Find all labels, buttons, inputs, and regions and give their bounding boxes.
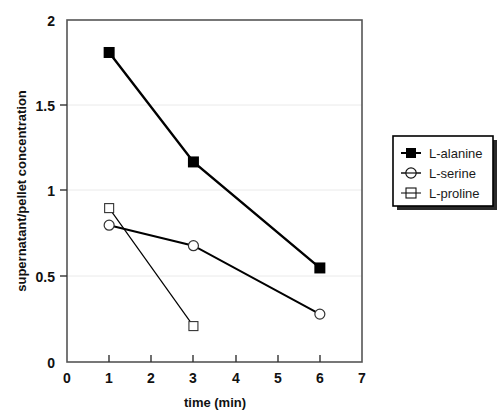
y-tick-label-1: 1 [47,183,55,199]
x-tick-label-4: 4 [232,370,240,386]
data-point [315,309,325,319]
x-tick-label-6: 6 [316,370,324,386]
data-point [188,156,199,167]
x-tick-label-1: 1 [105,370,113,386]
data-point [188,241,198,251]
x-tick-label-0: 0 [63,370,71,386]
data-point [314,262,325,273]
data-point [189,322,198,331]
legend-label-l-serine: L-serine [429,166,476,181]
y-axis-title: supernatant/pellet concentration [14,90,29,292]
legend-label-l-alanine: L-alanine [429,146,483,161]
x-tick-label-3: 3 [189,370,197,386]
x-axis-title: time (min) [184,395,246,410]
y-tick-label-1.5: 1.5 [36,98,56,114]
legend: L-alanine L-serine L-proline [393,136,497,210]
filled-square-icon [406,148,416,158]
x-tick-label-5: 5 [274,370,282,386]
data-point [105,204,114,213]
y-tick-label-0.5: 0.5 [36,269,56,285]
y-tick-label-2: 2 [47,13,55,29]
legend-label-l-proline: L-proline [429,186,480,201]
data-point [104,47,115,58]
chart-figure: 2 1.5 1 0.5 0 0 1 2 3 4 5 6 7 time (min)… [0,0,500,420]
x-tick-label-2: 2 [147,370,155,386]
y-tick-label-0: 0 [47,355,55,371]
data-point [104,220,114,230]
x-tick-label-7: 7 [358,370,366,386]
